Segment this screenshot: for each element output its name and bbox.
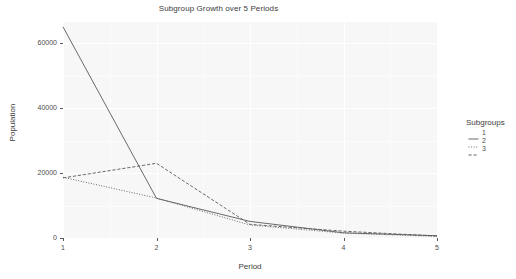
y-tick-label-0: 0 [17, 234, 57, 241]
legend-label-2: 2 [482, 137, 486, 145]
x-axis-title: Period [63, 262, 437, 271]
legend-item-3[interactable]: 3 [468, 145, 516, 153]
y-tick-label-20000: 20000 [17, 169, 57, 176]
series-layer [63, 22, 437, 238]
legend-key-icon-2 [468, 137, 479, 145]
x-tick-label-2: 2 [142, 244, 172, 251]
legend-key-icon-1 [468, 129, 479, 137]
y-tick-label-40000: 40000 [17, 104, 57, 111]
series-line-1 [63, 27, 437, 236]
x-tick-label-3: 3 [235, 244, 265, 251]
legend-label-1: 1 [482, 129, 486, 137]
series-line-2 [63, 177, 437, 236]
legend-label-3: 3 [482, 145, 486, 153]
x-tick-mark [250, 238, 251, 241]
x-tick-label-1: 1 [48, 244, 78, 251]
legend-item-2[interactable]: 2 [468, 137, 516, 145]
x-tick-mark [63, 238, 64, 241]
x-tick-label-4: 4 [329, 244, 359, 251]
chart-figure: Subgroup Growth over 5 Periods 020000400… [0, 0, 516, 279]
legend-entries: 123 [466, 129, 516, 153]
legend-title: Subgroups [466, 118, 516, 127]
legend-item-1[interactable]: 1 [468, 129, 516, 137]
gridline-x-5 [437, 22, 438, 238]
legend: Subgroups 123 [466, 118, 516, 153]
y-tick-mark [60, 108, 63, 109]
y-tick-mark [60, 43, 63, 44]
y-tick-label-60000: 60000 [17, 39, 57, 46]
legend-key-icon-3 [468, 145, 479, 153]
x-tick-mark [344, 238, 345, 241]
x-tick-mark [157, 238, 158, 241]
x-tick-label-5: 5 [422, 244, 452, 251]
x-tick-mark [437, 238, 438, 241]
y-tick-mark [60, 173, 63, 174]
plot-panel [63, 22, 437, 238]
chart-title: Subgroup Growth over 5 Periods [0, 4, 437, 13]
y-axis-title: Population [8, 78, 17, 168]
